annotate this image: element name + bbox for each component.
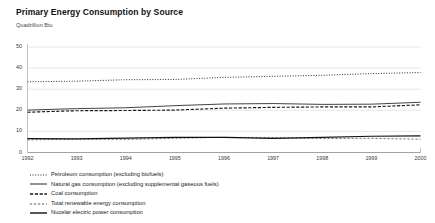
y-tick-label: 50	[8, 43, 22, 49]
legend-line-swatch	[30, 209, 47, 217]
series-lines	[28, 73, 421, 140]
legend-item-label: Petroleum consumption (excluding biofuel…	[51, 170, 163, 180]
x-tick-label: 1994	[114, 155, 138, 161]
x-tick-label: 1992	[16, 155, 40, 161]
legend-item[interactable]: Nucelar electric power consumption	[30, 208, 330, 218]
chart-container: Primary Energy Consumption by Source Qua…	[0, 0, 435, 223]
legend-item-label: Nucelar electric power consumption	[51, 208, 143, 218]
y-tick-label: 40	[8, 64, 22, 70]
legend-line-swatch	[30, 200, 47, 208]
legend-line-swatch	[30, 171, 47, 179]
legend-item-label: Coal consumption	[51, 189, 97, 199]
legend-item[interactable]: Natural gas consumption (excluding suppl…	[30, 180, 330, 190]
plot-area	[0, 0, 435, 168]
legend-line-swatch	[30, 190, 47, 198]
x-tick-label: 1993	[65, 155, 89, 161]
legend-item[interactable]: Total renewable energy consumption	[30, 199, 330, 209]
y-tick-label: 10	[8, 127, 22, 133]
x-tick-label: 1996	[212, 155, 236, 161]
legend-item-label: Natural gas consumption (excluding suppl…	[51, 180, 219, 190]
y-tick-label: 20	[8, 106, 22, 112]
legend-item-label: Total renewable energy consumption	[51, 199, 145, 209]
x-tick-label: 2000	[409, 155, 433, 161]
x-tick-label: 1997	[261, 155, 285, 161]
y-tick-label: 30	[8, 85, 22, 91]
legend-line-swatch	[30, 180, 47, 188]
x-tick-label: 1999	[359, 155, 383, 161]
legend-item[interactable]: Petroleum consumption (excluding biofuel…	[30, 170, 330, 180]
x-tick-label: 1998	[310, 155, 334, 161]
series-line-1	[28, 73, 421, 82]
series-line-2	[28, 102, 421, 110]
chart-legend: Petroleum consumption (excluding biofuel…	[30, 170, 330, 218]
x-tick-label: 1995	[163, 155, 187, 161]
legend-item[interactable]: Coal consumption	[30, 189, 330, 199]
y-tick-label: 0	[8, 149, 22, 155]
